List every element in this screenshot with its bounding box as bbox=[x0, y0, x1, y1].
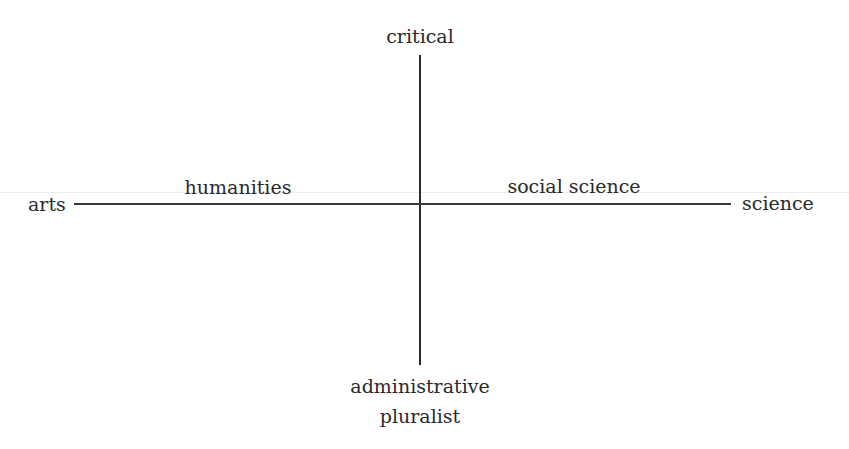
region-label-social-science: social science bbox=[507, 177, 640, 196]
axis-label-critical: critical bbox=[386, 27, 454, 46]
faint-guide-line bbox=[0, 192, 849, 193]
horizontal-axis bbox=[74, 203, 731, 205]
region-label-humanities: humanities bbox=[185, 178, 292, 197]
quadrant-diagram: critical arts science humanities social … bbox=[0, 0, 849, 449]
vertical-axis bbox=[419, 55, 421, 365]
axis-label-science: science bbox=[742, 194, 814, 213]
axis-label-administrative: administrative bbox=[350, 377, 489, 396]
axis-label-pluralist: pluralist bbox=[380, 407, 460, 426]
axis-label-arts: arts bbox=[28, 195, 66, 214]
